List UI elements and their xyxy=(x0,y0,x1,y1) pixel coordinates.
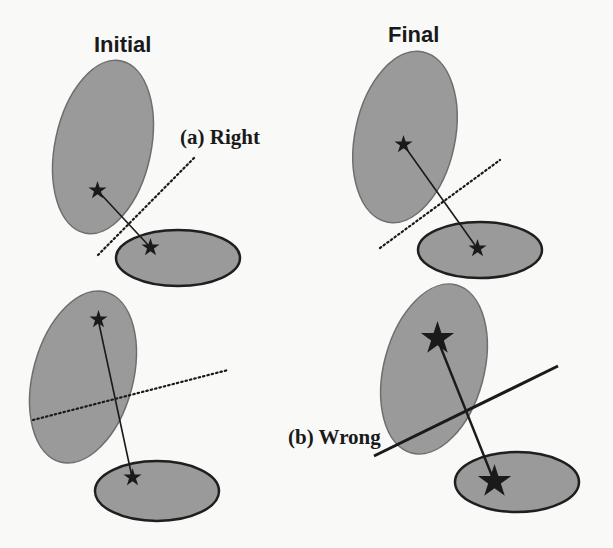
big-cluster-ellipse xyxy=(338,42,472,233)
panel-initial-right xyxy=(38,51,240,286)
diagram-svg: Initial Final xyxy=(0,0,613,548)
panel-final-wrong xyxy=(363,272,579,512)
panel-initial-wrong xyxy=(12,279,228,521)
small-cluster-ellipse xyxy=(95,461,219,521)
label-wrong: (b) Wrong xyxy=(288,425,381,449)
heading-initial: Initial xyxy=(94,32,151,57)
small-cluster-ellipse xyxy=(116,230,240,286)
label-right: (a) Right xyxy=(180,125,260,149)
big-cluster-ellipse xyxy=(12,279,154,475)
diagram-canvas: Initial Final xyxy=(0,0,613,548)
big-cluster-ellipse xyxy=(38,51,168,243)
panel-final-right xyxy=(338,42,542,278)
small-cluster-ellipse xyxy=(455,452,579,512)
heading-final: Final xyxy=(388,22,439,47)
big-cluster-ellipse xyxy=(363,272,505,466)
